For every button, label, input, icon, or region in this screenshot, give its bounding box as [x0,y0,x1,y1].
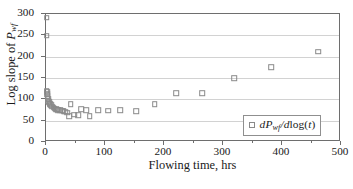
data-point-marker [44,15,50,21]
legend-entry-label: dPwf/dlog(t) [260,118,316,132]
data-point-marker [269,65,275,71]
y-tick-label: 50 [23,114,34,125]
x-tick-mark [45,141,46,145]
y-tick-mark [41,34,45,35]
x-tick-label: 500 [332,146,349,157]
y-axis-title-prefix: Log slope of [4,40,18,106]
gridline [46,57,339,58]
chart-figure: 050100150200250300 0100200300400500 Flow… [0,0,353,189]
data-point-marker [118,107,124,113]
gridline [46,99,339,100]
x-tick-label: 400 [273,146,290,157]
data-point-marker [133,108,139,114]
data-point-marker [76,112,82,118]
y-tick-mark [41,98,45,99]
data-point-marker [87,113,93,119]
gridline [46,35,339,36]
legend[interactable]: dPwf/dlog(t) [243,115,321,136]
data-point-marker [68,102,74,108]
x-tick-label: 0 [42,146,48,157]
x-tick-mark [163,141,164,145]
legend-func: log( [289,118,308,130]
x-tick-label: 100 [96,146,113,157]
y-tick-label: 100 [17,93,34,104]
y-axis-title-symbol: P [4,32,18,40]
y-tick-label: 0 [28,135,34,146]
data-point-marker [95,107,101,113]
data-point-marker [105,108,111,114]
x-tick-label: 300 [214,146,231,157]
data-point-marker [200,91,206,97]
y-tick-label: 250 [17,29,34,40]
x-tick-mark [281,141,282,145]
x-tick-mark [104,141,105,145]
data-point-marker [174,91,180,97]
y-tick-mark [41,13,45,14]
gridline [46,78,339,79]
x-axis-title: Flowing time, hrs [45,158,340,173]
y-tick-label: 300 [17,7,34,18]
y-tick-label: 200 [17,50,34,61]
y-tick-mark [41,120,45,121]
x-tick-mark-minor [193,141,194,143]
y-axis-title-subscript: wf [8,24,18,32]
x-axis-title-text: Flowing time, hrs [149,158,237,172]
x-tick-mark-minor [134,141,135,143]
y-tick-mark [41,141,45,142]
y-axis-title: Log slope of Pwf [4,0,19,130]
x-tick-mark [340,141,341,145]
legend-square-marker-icon [249,122,255,128]
x-tick-label: 200 [155,146,172,157]
x-tick-mark-minor [311,141,312,143]
data-point-marker [315,49,321,55]
y-tick-mark [41,56,45,57]
data-point-marker [44,33,50,39]
data-point-marker [152,102,158,108]
y-tick-label: 150 [17,71,34,82]
x-tick-mark-minor [75,141,76,143]
x-tick-mark-minor [252,141,253,143]
y-tick-mark [41,77,45,78]
data-point-marker [231,75,237,81]
x-tick-mark [222,141,223,145]
legend-close: ) [311,118,315,130]
